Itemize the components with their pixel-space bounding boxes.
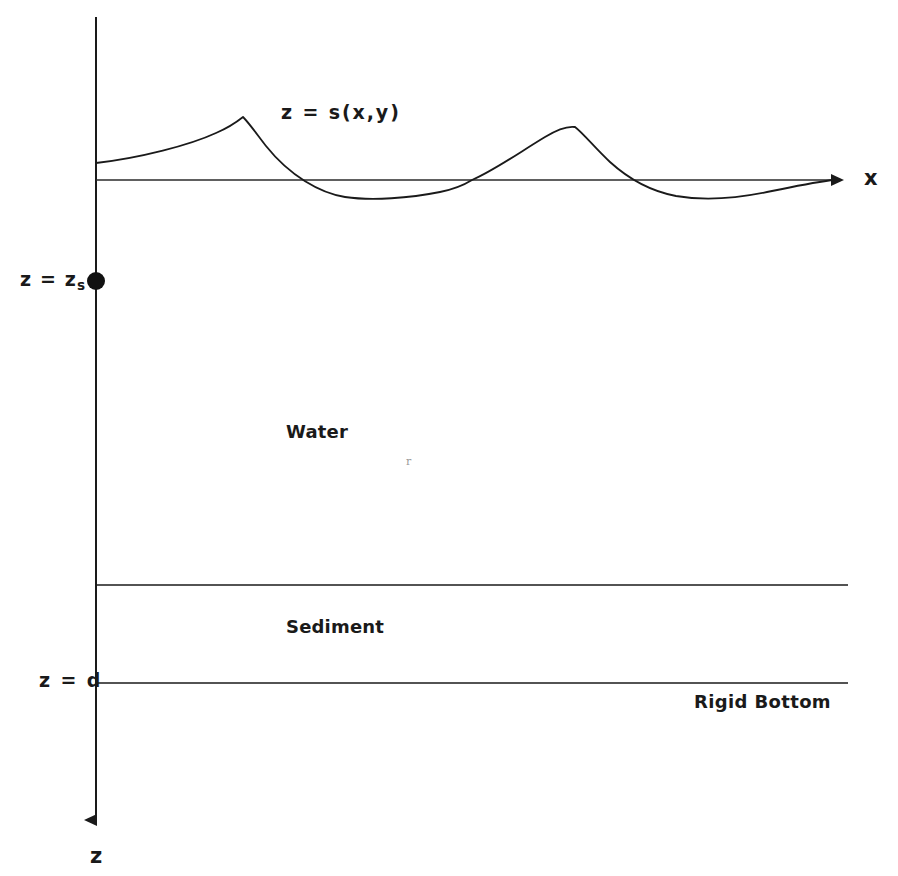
diagram-canvas: z = s(x,y) z = zs Water Sediment z = d R…: [0, 0, 898, 876]
water-region-label: Water: [286, 423, 348, 441]
sea-surface-curve: [96, 117, 832, 199]
sediment-depth-label: z = d: [39, 671, 102, 690]
surface-equation-label: z = s(x,y): [281, 103, 401, 122]
diagram-vector-layer: [0, 0, 898, 876]
surface-level-label: z = zs: [20, 270, 85, 293]
rigid-bottom-label: Rigid Bottom: [694, 693, 831, 711]
x-axis-label: x: [864, 168, 878, 189]
surface-level-subscript: s: [77, 277, 85, 293]
sediment-region-label: Sediment: [286, 618, 384, 636]
surface-reference-dot: [87, 272, 105, 290]
scan-artifact-speck: r: [406, 455, 411, 468]
z-axis-label: z: [90, 846, 102, 867]
surface-level-prefix: z = z: [20, 268, 77, 290]
